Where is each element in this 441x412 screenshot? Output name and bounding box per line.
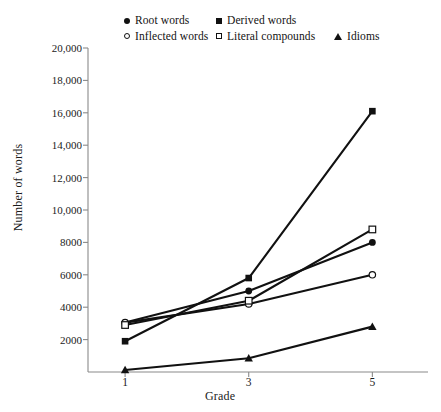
series-marker-derived-words	[369, 108, 376, 115]
series-marker-root-words	[369, 239, 376, 246]
series-marker-idioms	[368, 322, 376, 330]
chart-figure: Root words Derived words Inflected words…	[0, 0, 441, 412]
series-marker-derived-words	[245, 275, 252, 282]
series-line-idioms	[125, 327, 372, 370]
series-marker-literal-compounds	[245, 297, 252, 304]
series-marker-derived-words	[122, 338, 129, 345]
series-marker-literal-compounds	[369, 226, 376, 233]
series-marker-root-words	[245, 288, 252, 295]
series-marker-inflected-words	[369, 272, 375, 278]
plot-area	[0, 0, 441, 412]
series-marker-literal-compounds	[122, 322, 129, 329]
